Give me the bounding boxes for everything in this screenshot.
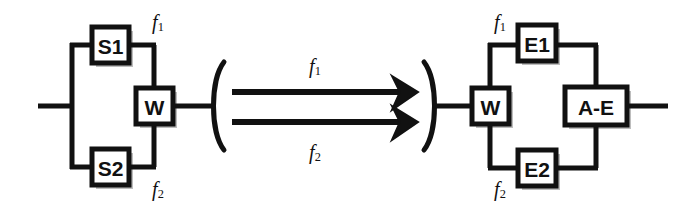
- block-e1-label: E1: [524, 33, 550, 56]
- block-e2[interactable]: E2: [518, 150, 556, 186]
- block-w-right-label: W: [481, 96, 501, 119]
- block-w-left-label: W: [145, 96, 165, 119]
- label-left-f1: f1: [152, 11, 164, 34]
- block-diagram: S1 S2 W W E1 E2: [0, 0, 700, 212]
- label-right-f1: f1: [494, 11, 506, 34]
- diagram-canvas: S1 S2 W W E1 E2: [0, 0, 700, 212]
- block-s2[interactable]: S2: [92, 149, 129, 185]
- channel-arrow-f1: [232, 76, 418, 110]
- block-e2-label: E2: [524, 158, 550, 181]
- block-a-e[interactable]: A-E: [565, 87, 627, 125]
- label-left-f2: f2: [152, 178, 164, 201]
- block-s2-label: S2: [98, 157, 124, 180]
- label-link-f1: f1: [309, 55, 321, 78]
- block-s1[interactable]: S1: [92, 27, 129, 63]
- block-s1-label: S1: [98, 35, 124, 58]
- label-right-f2: f2: [494, 178, 506, 201]
- block-w-right[interactable]: W: [472, 88, 509, 124]
- close-paren-glyph: [424, 62, 435, 150]
- label-link-f2: f2: [309, 141, 321, 164]
- transmission-link: [214, 62, 475, 150]
- open-paren-glyph: [214, 62, 225, 150]
- block-w-left[interactable]: W: [136, 88, 173, 124]
- block-e1[interactable]: E1: [518, 25, 556, 61]
- block-a-e-label: A-E: [578, 96, 614, 119]
- block-boxes: S1 S2 W W E1 E2: [92, 25, 627, 186]
- channel-arrow-f2: [232, 106, 418, 140]
